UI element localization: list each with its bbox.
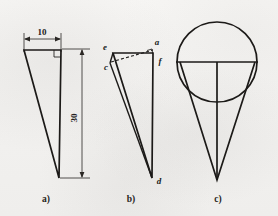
caption-b: b) [127,194,135,205]
dim-arrow-right-a [55,37,61,42]
technical-drawing-canvas: 10 30 a) [0,0,278,216]
dim-arrow-bottom-a [80,172,85,178]
caption-a: a) [42,194,50,205]
panel-c: c) [176,22,258,205]
vertex-label-a: a [155,37,160,47]
dim-label-height-a: 30 [69,113,79,123]
dim-arrow-top-a [80,49,85,55]
dim-label-width-a: 10 [38,27,48,37]
triangle-shape-b [113,53,153,178]
dashed-construction-line-b [111,50,153,62]
panel-a: 10 30 a) [24,27,90,205]
figure-sheet: 10 30 a) [0,0,278,216]
right-angle-mark-a [54,50,61,57]
triangle-shape-a [24,50,61,178]
vertex-label-f: f [159,56,163,66]
segment-c-d-b [110,63,152,178]
panel-b: e c a f d b) [103,37,163,205]
vertex-label-d: d [157,176,162,186]
vertex-label-e: e [103,42,107,52]
vertex-label-c: c [104,62,108,72]
caption-c: c) [214,194,221,205]
dim-arrow-left-a [24,37,30,42]
